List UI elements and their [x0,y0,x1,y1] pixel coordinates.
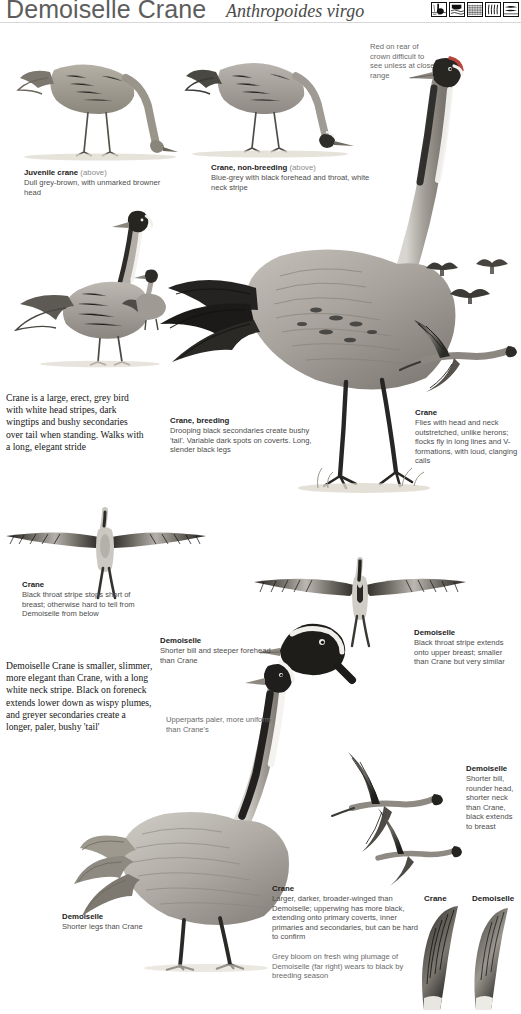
caption-title: Demoiselle [414,628,514,638]
note-upperparts: Upperparts paler, more uniform than Cran… [166,715,276,734]
caption-demoiselle-below: Demoiselle Black throat stripe extends o… [414,628,514,667]
caption-crane-flight: Crane Flies with head and neck outstretc… [415,408,519,466]
illustration-small-walking-crane [128,264,190,332]
habitat-icon-grassland [485,2,501,17]
header-divider [0,22,521,23]
caption-title: Crane [415,408,519,418]
caption-crane-below: Crane Black throat stripe stops short of… [22,580,152,619]
illustration-demoiselle-flight-pair [318,746,458,876]
scientific-name: Anthropoides virgo [226,1,364,22]
body-text-crane: Crane is a large, erect, grey bird with … [6,392,146,453]
caption-crane-breeding: Crane, breeding Drooping black secondari… [170,416,325,455]
caption-title: Crane [22,580,152,590]
wing-label-crane: Crane [424,894,447,903]
caption-demoiselle-legs: Demoiselle Shorter legs than Crane [62,912,152,932]
illustration-crane-flock-small [420,250,521,310]
caption-text: Dull grey-brown, with unmarked browner h… [24,178,160,197]
caption-title: Demoiselle [466,764,520,774]
caption-text: Black throat stripe stops short of breas… [22,590,135,618]
caption-title: Demoiselle [62,912,152,922]
caption-text: Shorter bill, rounder head, shorter neck… [466,774,513,831]
caption-text: Shorter legs than Crane [62,922,143,931]
page-header: Demoiselle Crane Anthropoides virgo [0,0,521,24]
illustration-crane-in-flight [398,312,520,394]
habitat-icon-strip [431,2,519,17]
caption-text: Larger, darker, broader-winged than Demo… [272,894,418,941]
page-title: Demoiselle Crane [6,0,206,24]
caption-text: Flies with head and neck outstretched, u… [415,418,517,465]
illustration-wing-demoiselle [470,906,520,1012]
habitat-icon-wetland [431,2,447,17]
caption-text: Black throat stripe extends onto upper b… [414,638,505,666]
caption-crane-upperwing: Crane Larger, darker, broader-winged tha… [272,884,422,942]
caption-demoiselle-bill: Demoiselle Shorter bill, rounder head, s… [466,764,520,832]
note-grey-bloom: Grey bloom on fresh wing plumage of Demo… [272,952,422,981]
caption-text: Drooping black secondaries create bushy … [170,426,312,454]
field-guide-page: Demoiselle Crane Anthropoides virgo [0,0,521,1014]
body-text-demoiselle: Demoiselle Crane is smaller, slimmer, mo… [6,660,154,733]
illustration-wing-crane [418,906,470,1012]
caption-title: Crane, breeding [170,416,325,426]
wing-label-demoiselle: Demoiselle [472,894,514,903]
habitat-icon-flight [503,2,519,17]
caption-title: Crane [272,884,422,894]
habitat-icon-water [449,2,465,17]
habitat-icon-farmland [467,2,483,17]
